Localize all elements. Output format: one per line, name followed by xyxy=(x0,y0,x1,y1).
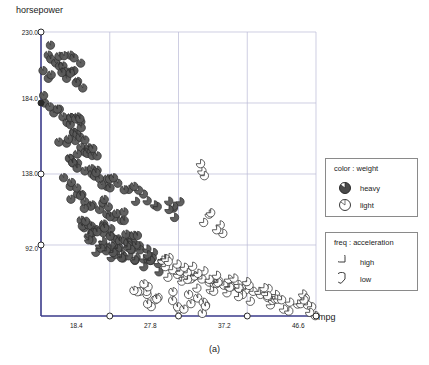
color-legend-label-heavy: heavy xyxy=(360,184,380,193)
data-points xyxy=(39,41,320,320)
heavy-marker-icon xyxy=(338,181,352,195)
scatter-chart: horsepower mpg 230.0 184.0 138.0 92.0 18… xyxy=(0,0,429,365)
light-marker-icon xyxy=(338,198,352,212)
freq-legend: freq : acceleration high low xyxy=(325,232,418,291)
figure-caption: (a) xyxy=(0,344,429,354)
freq-legend-entry-high[interactable]: high xyxy=(338,254,374,270)
low-freq-marker-icon xyxy=(338,272,352,286)
color-legend-entry-light[interactable]: light xyxy=(338,197,374,213)
color-legend: color : weight heavy light xyxy=(325,158,418,217)
color-legend-label-light: light xyxy=(360,201,374,210)
freq-legend-title: freq : acceleration xyxy=(334,238,394,247)
freq-legend-label-low: low xyxy=(360,275,371,284)
color-legend-entry-heavy[interactable]: heavy xyxy=(338,180,380,196)
freq-legend-label-high: high xyxy=(360,258,374,267)
freq-legend-entry-low[interactable]: low xyxy=(338,271,371,287)
high-freq-marker-icon xyxy=(338,255,352,269)
color-legend-title: color : weight xyxy=(334,164,378,173)
